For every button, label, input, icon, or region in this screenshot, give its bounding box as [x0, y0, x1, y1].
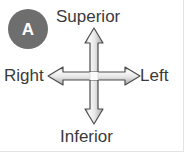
panel-badge-label: A: [22, 21, 34, 38]
panel-badge: A: [8, 9, 48, 49]
label-left: Left: [140, 67, 168, 84]
label-right: Right: [4, 67, 44, 84]
orientation-figure: A Superior Inferior Right Left: [0, 0, 184, 152]
label-inferior: Inferior: [60, 128, 113, 145]
arrow-center-junction: [90, 72, 98, 80]
four-way-arrow-cross-icon: [46, 26, 142, 126]
label-superior: Superior: [56, 8, 120, 25]
